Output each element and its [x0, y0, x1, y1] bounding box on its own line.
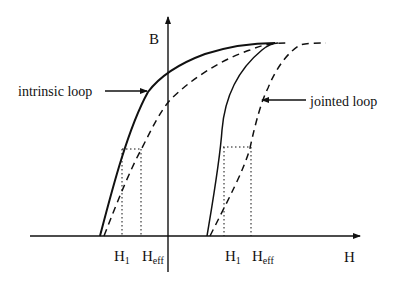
- right-dotted-guides: [223, 147, 251, 236]
- b-axis-label: B: [149, 31, 159, 47]
- jointed-loop-solid-curve: [207, 43, 278, 236]
- h-axis-label: H: [344, 249, 355, 265]
- intrinsic-loop-solid-curve: [100, 43, 275, 236]
- left-h1-label: H1: [114, 248, 130, 266]
- intrinsic-loop-dashed-curve: [104, 43, 290, 236]
- hysteresis-diagram: B H intrinsic loop jointed loop H1 Heff …: [0, 0, 399, 285]
- right-heff-label: Heff: [252, 248, 274, 266]
- intrinsic-loop-label: intrinsic loop: [18, 84, 92, 99]
- left-heff-label: Heff: [142, 248, 164, 266]
- jointed-loop-label: jointed loop: [309, 94, 377, 109]
- left-dotted-guides: [122, 149, 141, 236]
- right-h1-label: H1: [225, 248, 241, 266]
- jointed-loop-dashed-curve: [210, 43, 326, 236]
